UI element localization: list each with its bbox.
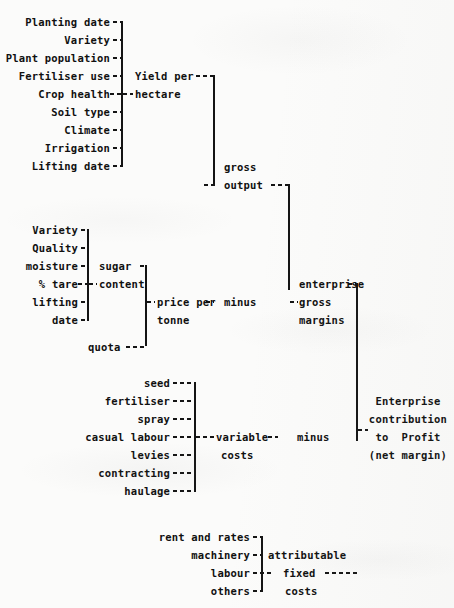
result-label: (net margin): [362, 449, 454, 461]
yield-per-hectare-label: Yield per: [135, 70, 215, 82]
yield-per-hectare-label: hectare: [135, 88, 215, 100]
result-label: Enterprise: [362, 395, 454, 407]
diagram-canvas: Planting date Variety Plant population F…: [0, 0, 454, 608]
result-label: to Profit: [362, 431, 454, 443]
connector-dash: [173, 418, 195, 420]
fixed-cost-label: rent and rates: [140, 531, 250, 543]
sugar-content-label: sugar: [99, 260, 179, 272]
connector-dash: [173, 490, 195, 492]
sugar-factor-label: lifting: [0, 296, 78, 308]
bracket-spine-egm: [288, 184, 290, 290]
enterprise-gross-margins-label: gross: [299, 296, 399, 308]
price-per-tonne-label: tonne: [157, 314, 237, 326]
sugar-factor-label: date: [0, 314, 78, 326]
minus-lower-label: minus: [297, 431, 357, 443]
attributable-fixed-costs-label: attributable: [268, 549, 378, 561]
sugar-factor-label: Quality: [0, 242, 78, 254]
yield-factor-label: Fertiliser use: [0, 70, 110, 82]
variable-cost-label: levies: [60, 449, 170, 461]
connector-dash: [173, 454, 195, 456]
yield-factor-label: Irrigation: [0, 142, 110, 154]
yield-factor-label: Lifting date: [0, 160, 110, 172]
gross-output-label: output: [224, 179, 304, 191]
bracket-spine-fixed-costs: [261, 536, 263, 592]
yield-factor-label: Climate: [0, 124, 110, 136]
yield-factor-label: Variety: [0, 34, 110, 46]
connector-dash: [173, 400, 195, 402]
variable-costs-label: variable: [216, 431, 306, 443]
yield-factor-label: Crop health: [0, 88, 110, 100]
sugar-factor-label: % tare: [0, 278, 78, 290]
fixed-cost-label: labour: [140, 567, 250, 579]
enterprise-gross-margins-label: margins: [299, 314, 399, 326]
connector-dash: [290, 301, 298, 303]
connector-dash: [173, 436, 195, 438]
fixed-cost-label: machinery: [140, 549, 250, 561]
enterprise-gross-margins-label: enterprise: [299, 278, 399, 290]
minus-upper-label: minus: [224, 296, 284, 308]
variable-cost-label: spray: [60, 413, 170, 425]
yield-factor-label: Planting date: [0, 16, 110, 28]
variable-cost-label: contracting: [60, 467, 170, 479]
connector-dash: [147, 301, 155, 303]
variable-cost-label: haulage: [60, 485, 170, 497]
attributable-fixed-costs-label: costs: [285, 585, 345, 597]
variable-cost-label: seed: [60, 377, 170, 389]
gross-output-label: gross: [224, 161, 304, 173]
connector-dash: [89, 283, 97, 285]
attributable-fixed-costs-label: fixed: [283, 567, 343, 579]
variable-cost-label: fertiliser: [60, 395, 170, 407]
quota-label: quota: [88, 341, 148, 353]
sugar-content-label: content: [99, 278, 179, 290]
bracket-spine-sugar: [87, 229, 89, 321]
connector-dash: [173, 472, 195, 474]
connector-dash: [173, 382, 195, 384]
connector-dash: [204, 184, 215, 186]
variable-costs-label: costs: [221, 449, 311, 461]
sugar-factor-label: moisture: [0, 260, 78, 272]
yield-factor-label: Plant population: [0, 52, 110, 64]
connector-dash: [123, 93, 133, 95]
sugar-factor-label: Variety: [0, 224, 78, 236]
yield-factor-label: Soil type: [0, 106, 110, 118]
variable-cost-label: casual labour: [60, 431, 170, 443]
connector-dash: [253, 572, 273, 574]
connector-dash: [196, 436, 214, 438]
fixed-cost-label: others: [140, 585, 250, 597]
result-label: contribution: [362, 413, 454, 425]
